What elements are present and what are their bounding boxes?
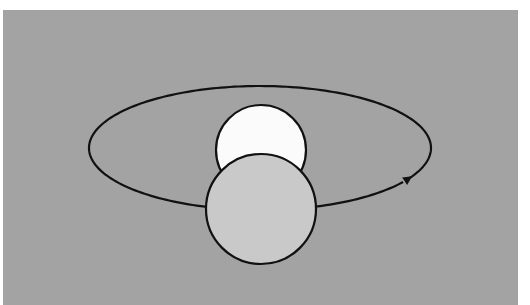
- orbit-diagram: [0, 0, 530, 305]
- front-circle-gray: [206, 154, 316, 264]
- diagram-canvas: [0, 0, 530, 305]
